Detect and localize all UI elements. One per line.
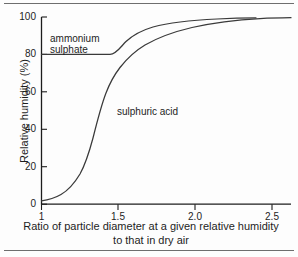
figure-container: 0 20 40 60 80 100 1 1.5 2.0 2.5 Relative… (0, 0, 298, 257)
y-axis-title: Relative humidity (%) (18, 41, 30, 181)
x-axis-title-line1: Ratio of particle diameter at a given re… (23, 220, 279, 232)
y-tick-label-0: 0 (14, 199, 36, 209)
annotation-ammonium-line1: ammonium (50, 33, 99, 44)
annotation-ammonium-sulphate: ammonium sulphate (50, 33, 99, 55)
y-tick-label-100: 100 (8, 12, 36, 22)
x-axis-ticks (42, 204, 273, 210)
x-axis-title: Ratio of particle diameter at a given re… (10, 219, 292, 247)
y-axis-ticks (42, 17, 48, 204)
annotation-sulphuric-acid: sulphuric acid (117, 106, 178, 117)
annotation-ammonium-line2: sulphate (50, 44, 88, 55)
x-axis-title-line2: to that in dry air (113, 234, 189, 246)
